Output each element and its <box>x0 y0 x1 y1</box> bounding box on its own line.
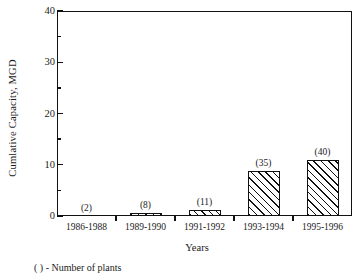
bar <box>248 171 280 216</box>
bar-value-label: (40) <box>293 147 353 157</box>
y-axis-tick-label: 40 <box>15 6 55 16</box>
y-axis-tick-major <box>57 215 63 216</box>
chart-footnote: ( ) - Number of plants <box>34 262 121 273</box>
y-axis-tick-label: 10 <box>15 160 55 170</box>
bar <box>307 160 339 216</box>
y-axis-tick-major <box>57 164 63 165</box>
y-axis-tick-minor <box>57 138 61 139</box>
y-axis-tick-minor <box>57 87 61 88</box>
bar-value-label: (35) <box>234 158 294 168</box>
y-axis-tick-minor <box>57 190 61 191</box>
bar-value-label: (2) <box>57 203 117 213</box>
y-axis-tick-major <box>57 10 63 11</box>
y-axis-tick-label: 0 <box>15 211 55 221</box>
y-axis-tick-major <box>57 62 63 63</box>
x-axis-tick-label: 1995-1996 <box>286 221 360 233</box>
bar-value-label: (8) <box>116 200 176 210</box>
y-axis-tick-label: 20 <box>15 109 55 119</box>
x-axis-title: Years <box>147 242 247 253</box>
bar <box>189 210 221 216</box>
bar-value-label: (11) <box>175 197 235 207</box>
bar <box>130 213 162 216</box>
y-axis-tick-minor <box>57 36 61 37</box>
y-axis-tick-major <box>57 113 63 114</box>
y-axis-tick-label: 30 <box>15 57 55 67</box>
chart-figure: Cumlative Capacity, MGD 0102030401986-19… <box>0 0 363 280</box>
